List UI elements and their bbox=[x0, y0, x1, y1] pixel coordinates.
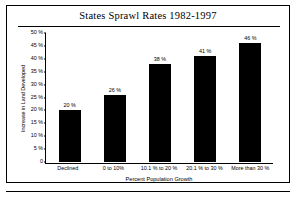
bar-value-label: 26 % bbox=[109, 88, 121, 93]
bar-slot: 41 % bbox=[183, 33, 228, 162]
y-axis-tick-label: 15 % bbox=[31, 121, 46, 126]
y-axis-tick-label: 20 % bbox=[31, 108, 46, 113]
x-axis-category-label: 0 to 10% bbox=[91, 166, 137, 171]
y-axis-tick-label: 35 % bbox=[31, 69, 46, 74]
chart-title: States Sprawl Rates 1982-1997 bbox=[7, 10, 289, 21]
bar-slot: 38 % bbox=[137, 33, 182, 162]
y-axis-tick-label: 30 % bbox=[31, 82, 46, 87]
y-axis-title: Increase in Land Developed bbox=[18, 33, 28, 164]
bar-slot: 46 % bbox=[228, 33, 273, 162]
bar bbox=[59, 110, 81, 162]
footer-divider bbox=[6, 191, 290, 192]
x-axis-title: Percent Population Growth bbox=[45, 176, 273, 182]
x-axis-category-label: 20.1 % to 30 % bbox=[182, 166, 228, 171]
bar-slot: 20 % bbox=[47, 33, 92, 162]
y-axis-tick-label: 50 % bbox=[31, 30, 46, 35]
bar-value-label: 38 % bbox=[154, 57, 166, 62]
figure-frame: States Sprawl Rates 1982-1997 Increase i… bbox=[6, 5, 290, 183]
x-axis-category-label: More than 30 % bbox=[227, 166, 273, 171]
x-axis-category-label: Declined bbox=[45, 166, 91, 171]
bar bbox=[104, 95, 126, 162]
chart-page: States Sprawl Rates 1982-1997 Increase i… bbox=[0, 0, 296, 200]
x-axis-category-label: 10.1 % to 20 % bbox=[136, 166, 182, 171]
y-axis-tick-label: 10 % bbox=[31, 133, 46, 138]
bar-value-label: 46 % bbox=[244, 36, 256, 41]
bar bbox=[149, 64, 171, 162]
plot-area: 20 %26 %38 %41 %46 % 05 %10 %15 %20 %25 … bbox=[45, 33, 273, 164]
y-axis-tick-label: 25 % bbox=[31, 95, 46, 100]
y-axis-tick-label: 45 % bbox=[31, 43, 46, 48]
bar-value-label: 20 % bbox=[63, 103, 75, 108]
title-divider bbox=[18, 26, 280, 27]
bar bbox=[239, 43, 261, 162]
bar-value-label: 41 % bbox=[199, 49, 211, 54]
y-axis-tick-label: 5 % bbox=[34, 146, 46, 151]
bar-slot: 26 % bbox=[92, 33, 137, 162]
x-axis-tick-labels: Declined0 to 10%10.1 % to 20 %20.1 % to … bbox=[45, 166, 273, 171]
y-axis-tick-label: 0 bbox=[40, 159, 46, 164]
bar-series: 20 %26 %38 %41 %46 % bbox=[47, 33, 273, 162]
bar bbox=[194, 56, 216, 162]
y-axis-tick-label: 40 % bbox=[31, 56, 46, 61]
